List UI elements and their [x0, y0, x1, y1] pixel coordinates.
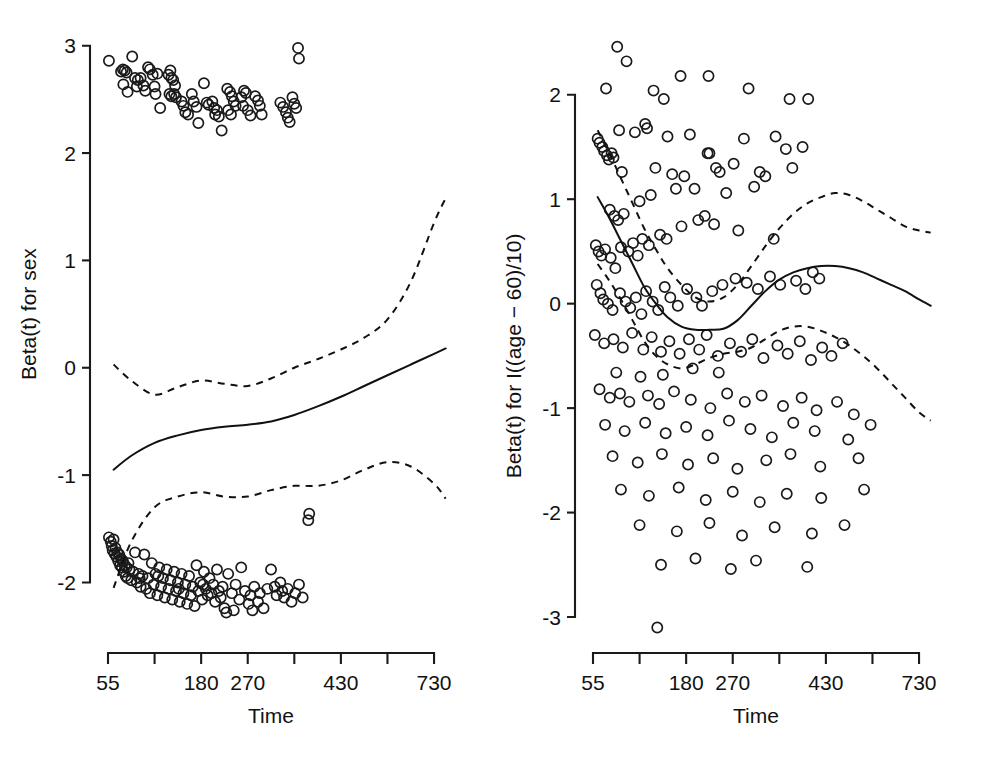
- scatter-point: [787, 163, 797, 173]
- scatter-point: [619, 209, 629, 219]
- scatter-point: [826, 351, 836, 361]
- scatter-point: [681, 422, 691, 432]
- scatter-point: [594, 384, 604, 394]
- scatter-point: [630, 127, 640, 137]
- scatter-point-upper: [183, 109, 193, 119]
- x-axis-tick-label: 270: [715, 671, 750, 694]
- scatter-point: [611, 368, 621, 378]
- scatter-point: [607, 451, 617, 461]
- panel-left-plot: -2-10123Beta(t) for sex55180270430730Tim…: [0, 0, 500, 759]
- scatter-point: [808, 267, 818, 277]
- scatter-point: [791, 276, 801, 286]
- scatter-point: [648, 85, 658, 95]
- x-axis-title: Time: [733, 704, 779, 727]
- scatter-point: [674, 482, 684, 492]
- x-axis-tick-label: 180: [184, 671, 219, 694]
- scatter-point: [669, 386, 679, 396]
- scatter-point: [590, 330, 600, 340]
- scatter-point: [853, 453, 863, 463]
- scatter-point: [683, 459, 693, 469]
- scatter-point: [702, 430, 712, 440]
- x-axis-line: [108, 653, 434, 664]
- scatter-point: [725, 338, 735, 348]
- scatter-point: [664, 336, 674, 346]
- x-axis-line: [593, 653, 919, 664]
- x-axis-title: Time: [248, 704, 294, 727]
- scatter-point: [781, 144, 791, 154]
- y-axis-tick-label: 2: [64, 142, 76, 165]
- scatter-point: [758, 353, 768, 363]
- scatter-point: [608, 334, 618, 344]
- confidence-band-upper: [114, 198, 446, 395]
- scatter-point: [849, 409, 859, 419]
- scatter-point: [612, 42, 622, 52]
- x-axis-tick-label: 270: [230, 671, 265, 694]
- x-axis-tick-label: 180: [669, 671, 704, 694]
- scatter-point: [782, 489, 792, 499]
- scatter-point-lower: [212, 564, 222, 574]
- scatter-point: [705, 403, 715, 413]
- y-axis-tick-label: 1: [549, 188, 561, 211]
- axes-group: -3-2-1012Beta(t) for I((age − 60)/10)551…: [502, 83, 937, 727]
- scatter-point: [806, 355, 816, 365]
- scatter-point: [739, 134, 749, 144]
- scatter-point: [697, 301, 707, 311]
- scatter-point: [662, 131, 672, 141]
- scatter-point: [665, 292, 675, 302]
- scatter-point-lower: [236, 562, 246, 572]
- scatter-point: [671, 184, 681, 194]
- scatter-point: [600, 420, 610, 430]
- scatter-point-lower: [304, 509, 314, 519]
- scatter-point: [743, 83, 753, 93]
- y-axis-tick-label: 3: [64, 34, 76, 57]
- scatter-point: [732, 464, 742, 474]
- scatter-point-upper: [287, 92, 297, 102]
- scatter-point: [627, 328, 637, 338]
- scatter-point: [637, 234, 647, 244]
- scatter-point: [770, 522, 780, 532]
- scatter-point: [658, 370, 668, 380]
- confidence-band-lower: [598, 264, 931, 421]
- x-axis-tick-label: 55: [581, 671, 604, 694]
- scatter-point: [675, 71, 685, 81]
- scatter-point: [816, 493, 826, 503]
- y-axis-tick-label: 0: [64, 356, 76, 379]
- x-axis-tick-label: 430: [323, 671, 358, 694]
- y-axis-tick-label: 2: [549, 83, 561, 106]
- scatter-point: [839, 520, 849, 530]
- scatter-point: [807, 528, 817, 538]
- scatter-point: [704, 518, 714, 528]
- scatter-point: [635, 372, 645, 382]
- axes-group: -2-10123Beta(t) for sex55180270430730Tim…: [17, 34, 452, 727]
- scatter-point: [646, 190, 656, 200]
- scatter-point: [708, 453, 718, 463]
- scatter-point: [620, 426, 630, 436]
- scatter-point: [686, 395, 696, 405]
- scatter-point: [832, 397, 842, 407]
- scatter-point: [726, 564, 736, 574]
- scatter-point: [722, 388, 732, 398]
- curves-group: [114, 198, 446, 588]
- scatter-point-lower: [231, 579, 241, 589]
- panel-right-plot: -3-2-1012Beta(t) for I((age − 60)/10)551…: [485, 0, 985, 759]
- scatter-points-group: [104, 43, 314, 618]
- scatter-point: [643, 390, 653, 400]
- scatter-point: [676, 221, 686, 231]
- smooth-fit-line: [114, 348, 446, 469]
- y-axis-title: Beta(t) for I((age − 60)/10): [502, 234, 525, 479]
- y-axis-tick-label: 1: [64, 249, 76, 272]
- scatter-point: [761, 455, 771, 465]
- scatter-point: [650, 163, 660, 173]
- scatter-point: [634, 520, 644, 530]
- scatter-point: [788, 418, 798, 428]
- y-axis-tick-label: -2: [57, 571, 76, 594]
- scatter-point: [714, 368, 724, 378]
- scatter-point-lower: [139, 549, 149, 559]
- scatter-point-lower: [199, 567, 209, 577]
- scatter-point: [798, 142, 808, 152]
- scatter-point: [717, 280, 727, 290]
- scatter-point: [601, 83, 611, 93]
- scatter-point: [672, 526, 682, 536]
- scatter-point: [624, 397, 634, 407]
- x-axis-tick-label: 55: [96, 671, 119, 694]
